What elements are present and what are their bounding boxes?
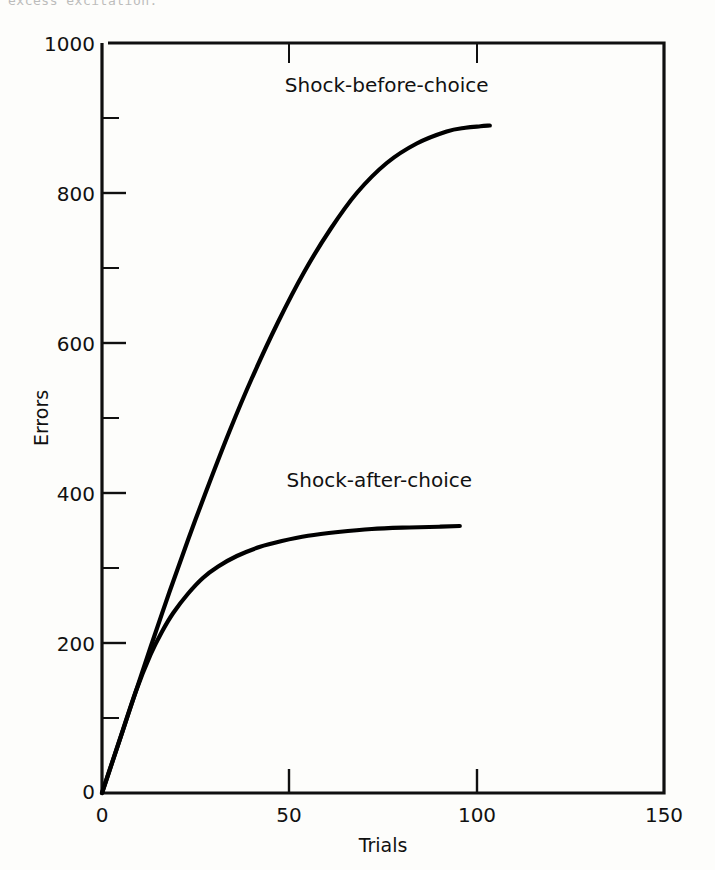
y-tick-label-0: 0 <box>82 780 95 804</box>
plot-frame <box>102 43 664 793</box>
curve-shock-after-choice <box>102 526 460 793</box>
series-curves <box>102 126 490 794</box>
series-label-shock-before-choice: Shock-before-choice <box>285 73 489 97</box>
line-chart: 1000 800 600 400 200 0 0 50 100 150 Tria… <box>0 0 715 870</box>
y-tick-label-400: 400 <box>57 482 95 506</box>
y-axis-title: Errors <box>30 390 52 446</box>
y-tick-label-1000: 1000 <box>44 32 95 56</box>
x-tick-labels: 0 50 100 150 <box>96 803 683 827</box>
series-label-shock-after-choice: Shock-after-choice <box>287 468 472 492</box>
x-tick-label-0: 0 <box>96 803 109 827</box>
y-tick-label-200: 200 <box>57 632 95 656</box>
x-axis-ticks <box>289 43 477 793</box>
curve-shock-before-choice <box>102 126 490 794</box>
series-annotations: Shock-before-choice Shock-after-choice <box>285 73 489 492</box>
y-tick-label-600: 600 <box>57 332 95 356</box>
y-axis-ticks <box>102 118 126 718</box>
x-tick-label-50: 50 <box>276 803 301 827</box>
x-tick-label-150: 150 <box>645 803 683 827</box>
x-axis-title: Trials <box>358 834 408 856</box>
x-tick-label-100: 100 <box>458 803 496 827</box>
y-tick-label-800: 800 <box>57 182 95 206</box>
figure-page: excess excitation. 1000 800 <box>0 0 715 870</box>
